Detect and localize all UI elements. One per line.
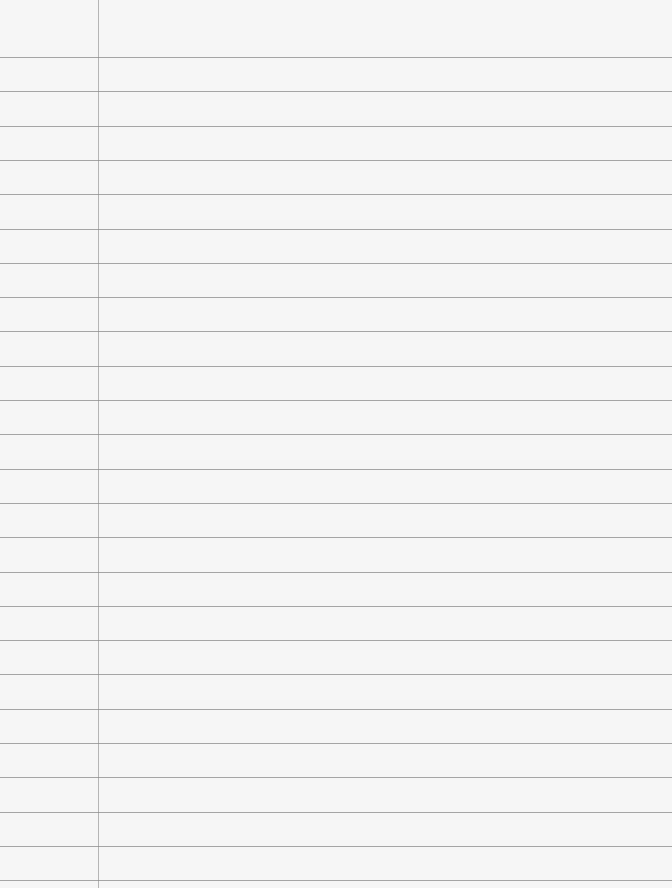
ruled-line (0, 743, 672, 744)
ruled-line (0, 709, 672, 710)
margin-line (98, 0, 99, 888)
ruled-line (0, 160, 672, 161)
ruled-line (0, 434, 672, 435)
ruled-line (0, 880, 672, 881)
ruled-line (0, 331, 672, 332)
ruled-line (0, 366, 672, 367)
ruled-line (0, 572, 672, 573)
ruled-line (0, 537, 672, 538)
ruled-line (0, 126, 672, 127)
ruled-line (0, 846, 672, 847)
ruled-line (0, 606, 672, 607)
ruled-line (0, 674, 672, 675)
ruled-line (0, 91, 672, 92)
ruled-line (0, 640, 672, 641)
ruled-line (0, 469, 672, 470)
ruled-line (0, 263, 672, 264)
ruled-line (0, 400, 672, 401)
ruled-line (0, 57, 672, 58)
ruled-line (0, 194, 672, 195)
ruled-line (0, 503, 672, 504)
ruled-line (0, 812, 672, 813)
ruled-line (0, 229, 672, 230)
lined-paper-sheet (0, 0, 672, 888)
ruled-line (0, 297, 672, 298)
ruled-line (0, 777, 672, 778)
